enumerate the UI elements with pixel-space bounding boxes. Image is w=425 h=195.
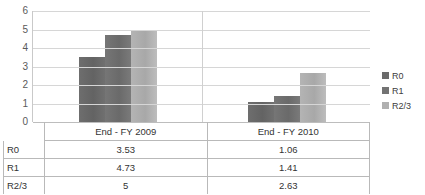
y-axis-tick-label: 4 (0, 43, 28, 53)
category-separator (202, 11, 203, 122)
data-table: End - FY 2009End - FY 2010R03.531.06R14.… (3, 122, 370, 194)
chart-legend: R0R1R2/3 (382, 68, 425, 113)
legend-swatch-icon (382, 87, 389, 94)
y-axis-tick-label: 1 (0, 99, 28, 109)
table-cell-value: 1.41 (207, 159, 370, 177)
table-row-label: R2/3 (4, 177, 45, 195)
legend-item-R0: R0 (382, 68, 425, 83)
table-cell-value: 5 (45, 177, 208, 195)
table-row-label: R1 (4, 159, 45, 177)
legend-swatch-icon (382, 72, 389, 79)
y-axis-tick-label: 3 (0, 62, 28, 72)
table-corner-cell (4, 123, 45, 141)
table-row: R14.731.41 (4, 159, 370, 177)
y-axis-tick-label: 5 (0, 25, 28, 35)
table-column-header: End - FY 2010 (207, 123, 370, 141)
table-header-row: End - FY 2009End - FY 2010 (4, 123, 370, 141)
legend-item-label: R1 (392, 86, 404, 96)
table-cell-value: 2.63 (207, 177, 370, 195)
legend-item-R2-3: R2/3 (382, 98, 425, 113)
table-row: R03.531.06 (4, 141, 370, 159)
legend-item-label: R2/3 (392, 101, 411, 111)
bar-R0-EndFY2010 (248, 102, 274, 122)
legend-item-label: R0 (392, 71, 404, 81)
chart-with-data-table: 6543210 R0R1R2/3 End - FY 2009End - FY 2… (0, 0, 425, 194)
bar-R2-3-EndFY2010 (300, 73, 326, 122)
legend-swatch-icon (382, 102, 389, 109)
table-cell-value: 4.73 (45, 159, 208, 177)
bar-R1-EndFY2010 (274, 96, 300, 122)
table-row: R2/352.63 (4, 177, 370, 195)
bar-R2-3-EndFY2009 (131, 30, 157, 123)
table-cell-value: 1.06 (207, 141, 370, 159)
y-axis-tick-label: 6 (0, 6, 28, 16)
table-column-header: End - FY 2009 (45, 123, 208, 141)
legend-item-R1: R1 (382, 83, 425, 98)
table-cell-value: 3.53 (45, 141, 208, 159)
y-axis: 6543210 (0, 6, 28, 122)
table-row-label: R0 (4, 141, 45, 159)
plot-area (32, 11, 370, 122)
y-axis-tick-label: 2 (0, 80, 28, 90)
